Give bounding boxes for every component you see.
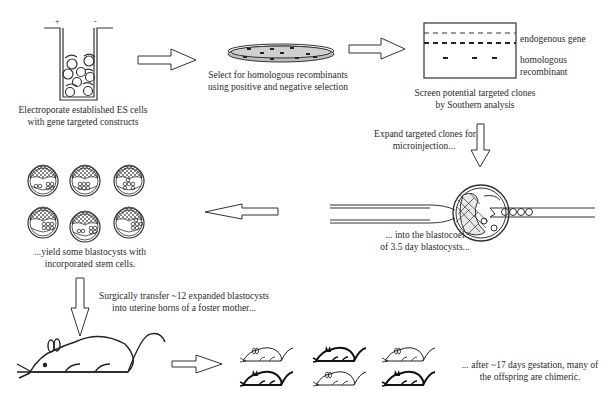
- offspring-line2: the offspring are chimeric.: [455, 371, 605, 383]
- offspring-line1: ... after ~17 days gestation, many of: [455, 359, 605, 371]
- offspring-caption: ... after ~17 days gestation, many of th…: [455, 359, 605, 383]
- chimeric-pups-icon: [0, 0, 616, 405]
